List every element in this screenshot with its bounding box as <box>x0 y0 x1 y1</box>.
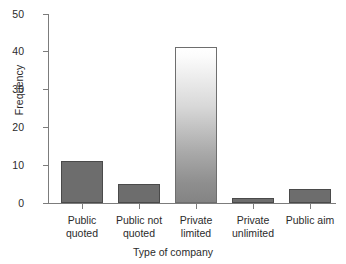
y-tick-20 <box>43 127 48 128</box>
x-tick-3 <box>253 204 254 209</box>
y-tick-10 <box>43 165 48 166</box>
plot-area: 0 10 20 30 40 50 Public quoted Public no… <box>48 14 336 203</box>
x-axis-label: Type of company <box>0 246 346 258</box>
bar-public-aim <box>289 189 331 203</box>
x-tick-4 <box>310 204 311 209</box>
y-axis-line <box>48 14 49 204</box>
y-tick-label-50: 50 <box>0 9 24 20</box>
y-tick-label-20: 20 <box>0 122 24 133</box>
y-tick-50 <box>43 14 48 15</box>
bar-private-limited <box>175 47 217 203</box>
y-tick-0 <box>43 203 48 204</box>
x-tick-2 <box>196 204 197 209</box>
x-tick-0 <box>82 204 83 209</box>
bar-public-not-quoted <box>118 184 160 203</box>
y-tick-label-10: 10 <box>0 160 24 171</box>
y-tick-label-30: 30 <box>0 84 24 95</box>
bar-chart: Frequency 0 10 20 30 40 50 Public quoted <box>0 0 346 264</box>
bar-public-quoted <box>61 161 103 203</box>
y-tick-label-40: 40 <box>0 46 24 57</box>
y-tick-30 <box>43 89 48 90</box>
bar-private-unlimited <box>232 198 274 203</box>
x-axis-line <box>48 203 336 204</box>
x-tick-1 <box>139 204 140 209</box>
y-tick-40 <box>43 51 48 52</box>
x-category-label-3-line2: unlimited <box>213 227 293 240</box>
x-category-label-4: Public aim <box>270 214 346 227</box>
y-tick-label-0: 0 <box>0 198 24 209</box>
x-category-label-4-line1: Public aim <box>270 214 346 227</box>
